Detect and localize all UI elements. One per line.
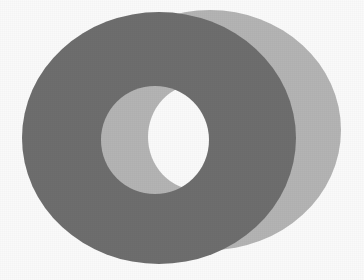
figure-canvas: Two overlapping ring (annulus) shapes A … xyxy=(0,0,364,280)
overlapping-rings-figure: Two overlapping ring (annulus) shapes A … xyxy=(0,0,364,280)
dark-ring-outer-ellipse xyxy=(22,12,296,264)
dark-gray-ring xyxy=(22,12,296,264)
